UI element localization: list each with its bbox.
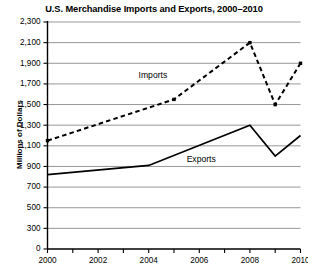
x-axis-tick-label: 2010 — [281, 256, 309, 265]
data-point-marker — [274, 103, 277, 106]
series-lines — [48, 43, 301, 175]
y-axis-tick-label: 1,500 — [0, 100, 41, 109]
series-label-exports: Exports — [187, 154, 216, 164]
x-axis-tick-label: 2000 — [28, 256, 68, 265]
y-axis-tick-label: 900 — [0, 162, 41, 171]
data-point-marker — [299, 62, 302, 65]
y-axis-tick-label: 1,100 — [0, 141, 41, 150]
data-point-marker — [248, 41, 251, 44]
y-axis-tick-label: 700 — [0, 182, 41, 191]
chart-figure: U.S. Merchandise Imports and Exports, 20… — [0, 0, 308, 277]
series-markers — [46, 41, 302, 142]
y-axis-tick-label: 1,700 — [0, 79, 41, 88]
plot-area — [0, 0, 308, 277]
x-axis-tick-label: 2006 — [179, 256, 219, 265]
y-axis-tick-label: 1,900 — [0, 59, 41, 68]
series-label-imports: Imports — [139, 70, 168, 80]
series-line-imports — [48, 43, 301, 141]
y-axis-tick-label: 2,100 — [0, 38, 41, 47]
y-axis-tick-label: 0 — [0, 244, 41, 253]
series-line-exports — [48, 125, 301, 175]
gridlines — [48, 22, 301, 228]
data-point-marker — [46, 139, 49, 142]
x-axis-tick-label: 2004 — [129, 256, 169, 265]
x-axis-tick-label: 2008 — [230, 256, 270, 265]
y-axis-tick-label: 2,300 — [0, 17, 41, 26]
y-axis-tick-label: 300 — [0, 224, 41, 233]
y-axis-tick-label: 500 — [0, 203, 41, 212]
x-axis-tick-label: 2002 — [78, 256, 118, 265]
y-axis-tick-label: 1,300 — [0, 121, 41, 130]
data-point-marker — [172, 98, 175, 101]
